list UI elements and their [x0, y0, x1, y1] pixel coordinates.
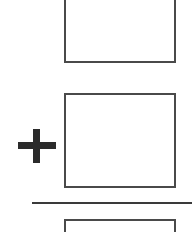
sum-underline-divider [32, 202, 192, 204]
addend-1-box[interactable] [64, 0, 176, 63]
addend-2-box[interactable] [64, 93, 176, 188]
sum-answer-box[interactable] [64, 219, 176, 232]
plus-icon-vertical-bar [33, 129, 40, 163]
plus-icon [18, 129, 56, 163]
